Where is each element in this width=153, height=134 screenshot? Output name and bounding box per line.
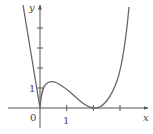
y-axis-label: y [28, 2, 35, 13]
y-tick-label-1: 1 [29, 83, 35, 94]
origin-label: 0 [30, 112, 36, 123]
x-axis-label: x [143, 112, 149, 123]
function-curve [23, 5, 129, 108]
x-tick-label-1: 1 [63, 115, 69, 126]
chart: y x 0 1 1 [0, 0, 153, 134]
